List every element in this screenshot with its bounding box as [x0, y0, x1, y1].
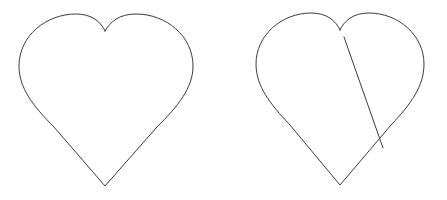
figure-canvas	[0, 0, 447, 200]
canvas-background	[0, 0, 447, 200]
heart-figure-svg	[0, 0, 447, 200]
